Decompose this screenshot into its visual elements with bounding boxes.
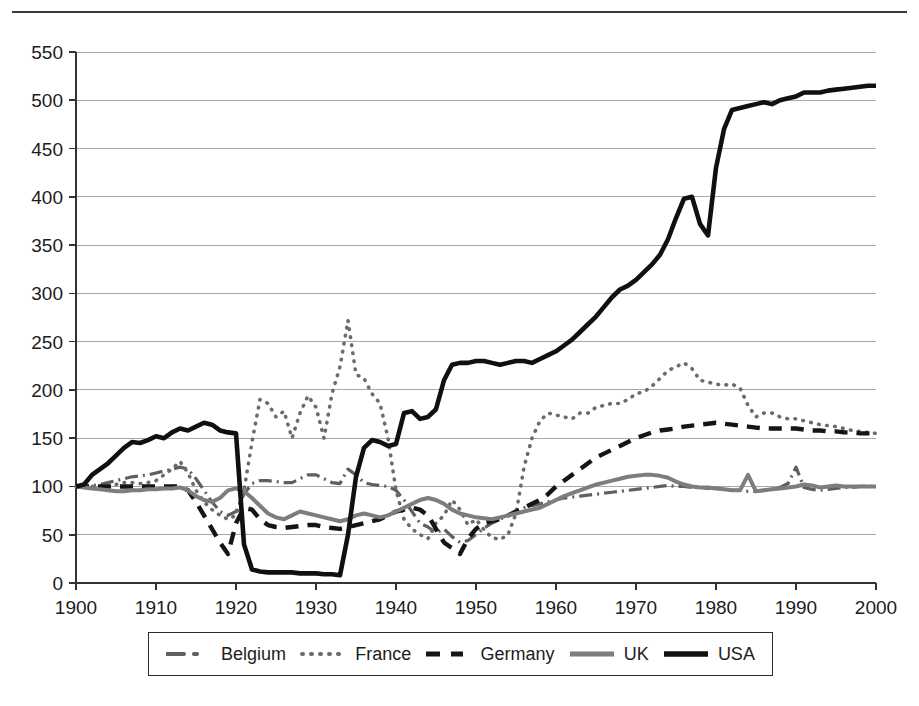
y-tick-label-250: 250	[31, 332, 63, 353]
series-line-france	[76, 320, 876, 539]
x-tick-label-1910: 1910	[135, 597, 177, 618]
y-tick-label-400: 400	[31, 187, 63, 208]
header-rule	[12, 11, 907, 13]
y-tick-label-500: 500	[31, 90, 63, 111]
x-tick-label-1980: 1980	[695, 597, 737, 618]
y-tick-label-550: 550	[31, 42, 63, 63]
x-tick-label-1990: 1990	[775, 597, 817, 618]
legend-label-germany: Germany	[480, 644, 554, 665]
y-tick-label-100: 100	[31, 476, 63, 497]
y-tick-label-50: 50	[42, 525, 63, 546]
y-tick-label-450: 450	[31, 139, 63, 160]
legend-label-uk: UK	[624, 644, 649, 665]
legend-item-uk[interactable]: UK	[569, 644, 649, 665]
series-line-usa	[76, 86, 876, 575]
figure-root: 0501001502002503003504004505005501900191…	[0, 0, 919, 706]
x-tick-label-1930: 1930	[295, 597, 337, 618]
x-tick-label-1900: 1900	[55, 597, 97, 618]
legend-swatch-belgium	[166, 647, 212, 661]
legend-swatch-uk	[569, 647, 615, 661]
x-tick-label-1960: 1960	[535, 597, 577, 618]
series-line-uk	[76, 475, 876, 521]
legend-label-belgium: Belgium	[221, 644, 286, 665]
y-tick-label-200: 200	[31, 380, 63, 401]
y-tick-label-350: 350	[31, 235, 63, 256]
x-tick-label-1970: 1970	[615, 597, 657, 618]
y-tick-label-0: 0	[52, 573, 63, 594]
legend-item-france[interactable]: France	[300, 644, 411, 665]
legend-item-belgium[interactable]: Belgium	[166, 644, 286, 665]
x-tick-label-2000: 2000	[855, 597, 897, 618]
legend-label-usa: USA	[718, 644, 755, 665]
legend-swatch-usa	[663, 647, 709, 661]
legend-swatch-france	[300, 647, 346, 661]
x-tick-label-1940: 1940	[375, 597, 417, 618]
chart-legend: Belgium France Germany UK USA	[148, 632, 773, 676]
x-tick-label-1920: 1920	[215, 597, 257, 618]
x-tick-label-1950: 1950	[455, 597, 497, 618]
legend-label-france: France	[355, 644, 411, 665]
y-tick-label-150: 150	[31, 428, 63, 449]
legend-swatch-germany	[425, 647, 471, 661]
y-tick-label-300: 300	[31, 283, 63, 304]
legend-item-usa[interactable]: USA	[663, 644, 755, 665]
legend-item-germany[interactable]: Germany	[425, 644, 554, 665]
line-chart: 0501001502002503003504004505005501900191…	[0, 18, 919, 618]
chart-plot-area: 0501001502002503003504004505005501900191…	[0, 18, 919, 618]
